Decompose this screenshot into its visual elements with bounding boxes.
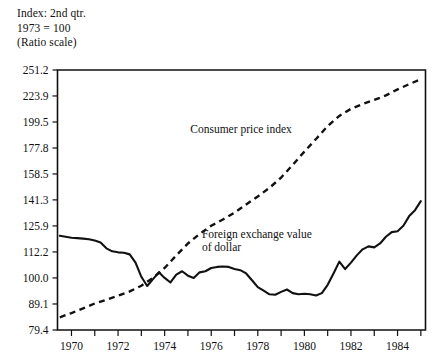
series-annotations: Consumer price indexForeign exchange val…	[190, 123, 312, 253]
y-tick-label: 79.4	[28, 324, 48, 336]
y-tick-label: 199.5	[23, 116, 49, 128]
series-annotation-label: of dollar	[202, 241, 241, 253]
x-tick-label: 1974	[153, 340, 176, 352]
series-annotation-label: Consumer price index	[190, 123, 292, 136]
y-tick-label: 141.3	[23, 194, 49, 206]
series-consumer-price-index	[60, 79, 421, 317]
y-tick-label: 251.2	[23, 64, 49, 76]
y-tick-label: 89.1	[28, 298, 48, 310]
chart-figure: Index: 2nd qtr. 1973 = 100 (Ratio scale)…	[0, 0, 439, 364]
x-tick-label: 1972	[107, 340, 130, 352]
header-line-2: 1973 = 100	[17, 21, 86, 36]
y-tick-label: 177.8	[23, 142, 49, 154]
x-tick-label: 1984	[386, 340, 409, 352]
y-tick-label: 125.9	[23, 220, 49, 232]
x-tick-label: 1976	[200, 340, 223, 352]
line-chart-plot: 251.2223.9199.5177.8158.5141.3125.9112.2…	[0, 0, 439, 364]
series-annotation-label: Foreign exchange value	[202, 228, 312, 241]
x-tick-label: 1978	[246, 340, 269, 352]
y-tick-label: 158.5	[23, 168, 49, 180]
x-tick-label: 1982	[339, 340, 362, 352]
x-tick-label: 1970	[60, 340, 83, 352]
chart-header-note: Index: 2nd qtr. 1973 = 100 (Ratio scale)	[17, 6, 86, 50]
header-line-1: Index: 2nd qtr.	[17, 6, 86, 21]
y-tick-label: 100.0	[23, 272, 49, 284]
header-line-3: (Ratio scale)	[17, 35, 86, 50]
y-tick-label: 112.2	[23, 246, 49, 258]
x-tick-label: 1980	[293, 340, 316, 352]
y-axis-ticks: 251.2223.9199.5177.8158.5141.3125.9112.2…	[23, 64, 58, 336]
axis-frame	[58, 70, 426, 330]
x-axis-ticks: 19701972197419761978198019821984	[60, 330, 421, 352]
y-tick-label: 223.9	[23, 90, 49, 102]
